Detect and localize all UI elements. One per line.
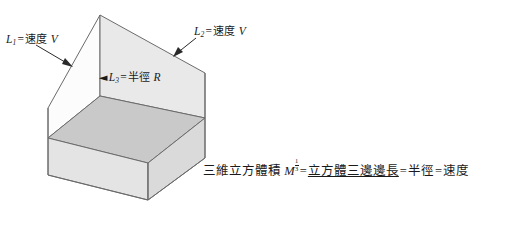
arrow-left-icon: ◄	[99, 71, 108, 84]
l3-value: R	[153, 71, 160, 83]
l1-leader-arrow	[36, 45, 73, 67]
caption-equals-1: =	[299, 164, 308, 178]
l3-term: 半徑	[128, 71, 150, 84]
caption-equals-3: =	[434, 164, 443, 178]
caption-equals-2: =	[399, 164, 408, 178]
l2-equals: =	[205, 25, 214, 37]
l1-symbol: L	[6, 33, 13, 45]
l2-subscript: 2	[201, 30, 205, 39]
figure-canvas: L1=速度 V L2=速度 V ◄L3=半徑 R 三維立方體積 M13=立方體三…	[0, 0, 508, 245]
label-l2: L2=速度 V	[194, 22, 246, 39]
l1-value: V	[51, 33, 58, 45]
l1-equals: =	[17, 33, 26, 45]
l2-value: V	[239, 25, 246, 37]
isometric-cube-illustration	[0, 0, 508, 245]
caption-term-2: 半徑	[408, 163, 434, 178]
caption-term-1: 立方體三邊邊長	[308, 163, 399, 178]
caption-symbol: M	[284, 164, 294, 178]
l2-leader-arrow	[173, 38, 196, 57]
l2-term: 速度	[213, 25, 235, 38]
caption-lead: 三維立方體積	[203, 163, 281, 178]
caption-formula: 三維立方體積 M13=立方體三邊邊長=半徑=速度	[203, 158, 469, 179]
l2-symbol: L	[194, 25, 201, 37]
l1-term: 速度	[25, 33, 47, 46]
l1-subscript: 1	[13, 38, 17, 47]
caption-term-3: 速度	[443, 163, 469, 178]
label-l1: L1=速度 V	[6, 30, 58, 47]
l3-equals: =	[119, 71, 128, 83]
label-l3: ◄L3=半徑 R	[99, 68, 161, 85]
